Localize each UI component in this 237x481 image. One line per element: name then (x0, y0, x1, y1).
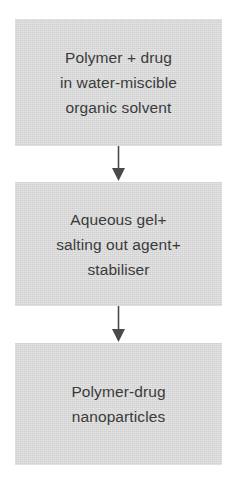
down-arrow-icon (0, 146, 237, 182)
flow-node-precursor-line-2: in water-miscible (60, 70, 177, 95)
flow-node-aqueous-gel-line-3: stabiliser (87, 257, 149, 282)
connector-gel-to-product (0, 306, 237, 343)
flow-node-precursor-line-3: organic solvent (66, 95, 172, 120)
connector-precursor-to-gel (0, 146, 237, 182)
flow-node-precursor-line-1: Polymer + drug (65, 45, 172, 70)
down-arrow-icon (0, 306, 237, 343)
flow-node-nanoparticles-line-1: Polymer-drug (71, 379, 165, 404)
flow-node-aqueous-gel: Aqueous gel+ salting out agent+ stabilis… (15, 182, 222, 306)
flow-node-aqueous-gel-line-1: Aqueous gel+ (70, 207, 166, 232)
flowchart-diagram: Polymer + drug in water-miscible organic… (0, 0, 237, 481)
flow-node-aqueous-gel-line-2: salting out agent+ (56, 232, 181, 257)
flow-node-nanoparticles: Polymer-drug nanoparticles (15, 343, 222, 465)
flow-node-precursor: Polymer + drug in water-miscible organic… (15, 19, 222, 146)
flow-node-nanoparticles-line-2: nanoparticles (72, 404, 166, 429)
